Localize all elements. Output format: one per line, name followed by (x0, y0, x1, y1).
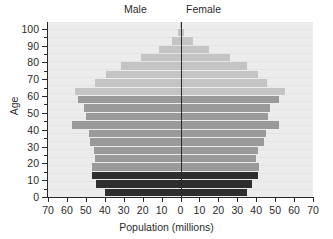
female-bar (181, 79, 267, 86)
x-tick (181, 197, 182, 202)
male-bar (75, 88, 180, 95)
y-tick (42, 113, 47, 114)
y-tick-label: 20 (15, 157, 39, 169)
female-bar (181, 121, 279, 128)
male-bar (78, 96, 180, 103)
female-bar (181, 180, 253, 187)
male-bar (95, 79, 180, 86)
female-bar (181, 147, 259, 154)
male-bar (89, 130, 181, 137)
y-tick-minor (44, 54, 47, 55)
y-tick (42, 197, 47, 198)
female-bar (181, 54, 230, 61)
y-tick-minor (44, 172, 47, 173)
female-bar (181, 189, 247, 196)
female-bar (181, 155, 257, 162)
female-bar (181, 138, 264, 145)
x-tick (86, 197, 87, 202)
y-tick (42, 180, 47, 181)
y-tick (42, 79, 47, 80)
x-tick (143, 197, 144, 202)
x-tick-label: 70 (301, 204, 325, 216)
female-bar (181, 130, 266, 137)
male-bar (86, 113, 181, 120)
male-bar (94, 147, 180, 154)
y-tick-label: 30 (15, 141, 39, 153)
y-tick-minor (44, 88, 47, 89)
x-tick (48, 197, 49, 202)
female-bar (181, 37, 193, 44)
x-tick (256, 197, 257, 202)
male-bar (90, 138, 181, 145)
y-tick (42, 96, 47, 97)
x-tick (162, 197, 163, 202)
y-tick-minor (44, 104, 47, 105)
male-bar (141, 54, 181, 61)
x-tick (67, 197, 68, 202)
y-tick-minor (44, 71, 47, 72)
male-bar (105, 189, 181, 196)
y-tick-minor (44, 155, 47, 156)
female-bar (181, 172, 259, 179)
y-tick (42, 147, 47, 148)
male-bar (172, 37, 181, 44)
y-tick-minor (44, 138, 47, 139)
x-tick (294, 197, 295, 202)
male-bar (106, 71, 181, 78)
y-tick (42, 62, 47, 63)
male-bar (121, 62, 181, 69)
y-tick-label: 90 (15, 40, 39, 52)
x-tick (124, 197, 125, 202)
plot-area (48, 22, 313, 197)
y-tick (42, 130, 47, 131)
male-bar (159, 46, 181, 53)
y-tick-label: 10 (15, 174, 39, 186)
population-pyramid-chart: Male Female 0102030405060708090100 Age 7… (0, 0, 333, 239)
female-bar (181, 71, 259, 78)
male-bar (72, 121, 181, 128)
y-tick-label: 70 (15, 73, 39, 85)
y-tick-label: 80 (15, 56, 39, 68)
male-bar (92, 163, 180, 170)
female-bar (181, 96, 279, 103)
x-tick (275, 197, 276, 202)
x-tick (199, 197, 200, 202)
female-bar (181, 88, 285, 95)
female-bar (181, 113, 268, 120)
zero-axis-line (181, 22, 182, 197)
y-tick (42, 163, 47, 164)
female-series-label: Female (186, 3, 221, 15)
male-bar (96, 180, 180, 187)
x-tick (105, 197, 106, 202)
male-bar (95, 155, 180, 162)
y-tick-minor (44, 121, 47, 122)
y-tick-label: 100 (15, 23, 39, 35)
y-tick (42, 46, 47, 47)
y-axis-title: Age (8, 86, 20, 126)
x-tick (237, 197, 238, 202)
male-series-label: Male (124, 3, 147, 15)
x-axis-title: Population (millions) (0, 221, 333, 233)
y-tick-minor (44, 189, 47, 190)
x-tick (218, 197, 219, 202)
female-bar (181, 163, 260, 170)
y-tick (42, 29, 47, 30)
male-bar (84, 104, 181, 111)
y-tick-label: 0 (15, 191, 39, 203)
female-bar (181, 104, 271, 111)
y-tick-minor (44, 37, 47, 38)
female-bar (181, 62, 247, 69)
female-bar (181, 46, 209, 53)
x-tick (313, 197, 314, 202)
male-bar (92, 172, 180, 179)
